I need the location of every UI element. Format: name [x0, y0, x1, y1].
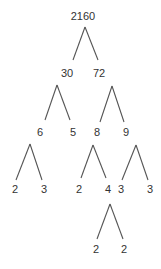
tree-edge — [57, 85, 70, 120]
tree-edge — [112, 86, 124, 122]
tree-node-label: 2 — [12, 183, 18, 195]
tree-edge — [122, 145, 136, 180]
tree-node-label: 6 — [37, 126, 43, 138]
tree-nodes: 21603072658923243322 — [12, 10, 153, 255]
tree-edge — [100, 86, 112, 122]
tree-edge — [30, 144, 42, 180]
tree-node-label: 4 — [105, 183, 111, 195]
tree-node-label: 2 — [93, 243, 99, 255]
tree-edge — [110, 204, 123, 239]
tree-node-label: 3 — [118, 183, 124, 195]
tree-edge — [93, 145, 106, 178]
tree-edge — [85, 27, 98, 60]
tree-node-label: 2 — [76, 183, 82, 195]
tree-edge — [73, 27, 85, 60]
tree-edge — [81, 145, 93, 178]
tree-edge — [97, 204, 110, 239]
tree-edge — [136, 145, 148, 180]
factor-tree-diagram: 21603072658923243322 — [0, 0, 161, 269]
tree-node-label: 3 — [41, 183, 47, 195]
tree-node-label: 8 — [94, 126, 100, 138]
tree-node-label: 2160 — [71, 10, 95, 22]
tree-node-label: 2 — [121, 243, 127, 255]
tree-node-label: 5 — [70, 126, 76, 138]
tree-edge — [45, 85, 57, 120]
tree-node-label: 3 — [147, 183, 153, 195]
tree-edge — [16, 144, 30, 180]
tree-node-label: 9 — [123, 126, 129, 138]
tree-node-label: 30 — [61, 67, 73, 79]
tree-node-label: 72 — [93, 67, 105, 79]
